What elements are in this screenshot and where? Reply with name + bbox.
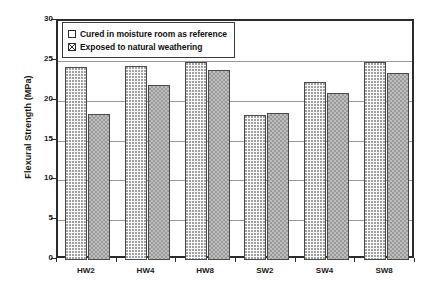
x-tick-label-SW8: SW8 <box>354 266 414 275</box>
bar-SW2-series-0 <box>244 115 266 260</box>
bar-HW8-series-1 <box>208 70 230 260</box>
bar-SW4-series-0 <box>304 82 326 260</box>
gridline <box>58 61 412 62</box>
x-tick <box>175 258 176 262</box>
legend-label-series-1: Exposed to natural weathering <box>80 42 202 52</box>
bar-SW4-series-1 <box>327 93 349 260</box>
y-tick-label: 10 <box>13 173 53 182</box>
flexural-strength-bar-chart: Flexural Strength (MPa) 051015202530 HW2… <box>0 0 434 299</box>
chart-legend: Cured in moisture room as reference Expo… <box>62 22 235 58</box>
x-tick <box>354 258 355 262</box>
bar-HW4-series-1 <box>148 85 170 260</box>
bar-HW8-series-0 <box>185 62 207 260</box>
x-tick-label-SW4: SW4 <box>295 266 355 275</box>
y-tick-label: 25 <box>13 54 53 63</box>
x-tick-label-HW2: HW2 <box>56 266 116 275</box>
legend-swatch-empty-square-icon <box>68 30 76 38</box>
bar-SW8-series-0 <box>364 62 386 260</box>
gridline <box>58 180 412 181</box>
bar-HW2-series-0 <box>65 67 87 260</box>
bar-HW4-series-0 <box>125 66 147 260</box>
y-tick-label: 20 <box>13 94 53 103</box>
x-tick <box>56 258 57 262</box>
x-tick-label-SW2: SW2 <box>235 266 295 275</box>
bar-HW2-series-1 <box>88 114 110 260</box>
y-tick-label: 15 <box>13 134 53 143</box>
x-tick <box>235 258 236 262</box>
x-tick-label-HW4: HW4 <box>116 266 176 275</box>
legend-item-series-0: Cured in moisture room as reference <box>68 27 227 40</box>
bar-SW8-series-1 <box>387 73 409 260</box>
y-tick-label: 0 <box>13 253 53 262</box>
legend-item-series-1: Exposed to natural weathering <box>68 40 227 53</box>
x-tick <box>295 258 296 262</box>
y-axis-title: Flexural Strength (MPa) <box>23 37 33 217</box>
legend-swatch-crossed-square-icon <box>68 43 76 51</box>
bar-SW2-series-1 <box>267 113 289 260</box>
y-tick-label: 30 <box>13 14 53 23</box>
gridline <box>58 220 412 221</box>
x-tick <box>414 258 415 262</box>
x-tick <box>116 258 117 262</box>
x-tick-label-HW8: HW8 <box>175 266 235 275</box>
gridline <box>58 101 412 102</box>
gridline <box>58 141 412 142</box>
legend-label-series-0: Cured in moisture room as reference <box>80 29 227 39</box>
y-tick-label: 5 <box>13 213 53 222</box>
